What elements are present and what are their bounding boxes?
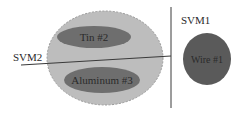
aluminum-class-label: Aluminum #3 [71,74,133,86]
wire-class-label: Wire #1 [191,54,223,65]
svm2-label: SVM2 [13,51,42,63]
svm-diagram: Tin #2 Aluminum #3 SVM2 SVM1 Wire #1 [0,0,245,115]
svm1-label: SVM1 [181,14,210,26]
tin-class-label: Tin #2 [80,31,109,43]
